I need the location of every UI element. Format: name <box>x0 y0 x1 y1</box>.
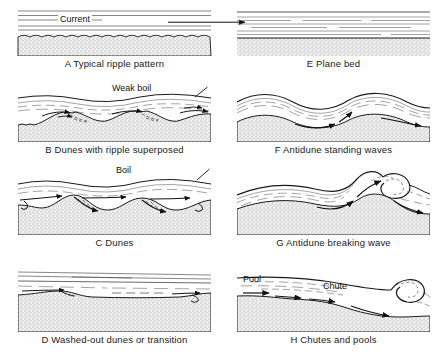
panel-h: Pool Chute H Chutes and pools <box>231 262 436 345</box>
panel-b: Weak boil B Dunes with ripple superposed <box>12 84 217 155</box>
panel-a-caption: A Typical ripple pattern <box>12 58 217 69</box>
panel-e-art <box>231 6 436 56</box>
panel-c: Boil C Dunes <box>12 167 217 248</box>
panel-f-caption: F Antidune standing waves <box>231 144 436 155</box>
panel-e-caption: E Plane bed <box>231 58 436 69</box>
panel-a: Current A Typical ripple pattern <box>12 6 217 69</box>
panel-g-caption: G Antidune breaking wave <box>231 237 436 248</box>
panel-c-art: Boil <box>12 167 217 235</box>
panel-d: D Washed-out dunes or transition <box>12 262 217 345</box>
panel-e: E Plane bed <box>231 6 436 69</box>
panel-c-caption: C Dunes <box>12 237 217 248</box>
panel-b-caption: B Dunes with ripple superposed <box>12 144 217 155</box>
bedform-sequence-figure: Current A Typical ripple pattern <box>0 0 443 360</box>
panel-d-art <box>12 262 217 332</box>
panel-h-art: Pool Chute <box>231 262 436 332</box>
panel-g-art <box>231 167 436 235</box>
panel-f: F Antidune standing waves <box>231 84 436 155</box>
panel-d-caption: D Washed-out dunes or transition <box>12 334 217 345</box>
panel-h-caption: H Chutes and pools <box>231 334 436 345</box>
annotation-pool: Pool <box>243 274 261 284</box>
panel-f-art <box>231 84 436 142</box>
annotation-current: Current <box>58 14 92 24</box>
panel-b-art: Weak boil <box>12 84 217 142</box>
panel-g: G Antidune breaking wave <box>231 167 436 248</box>
annotation-chute: Chute <box>323 281 347 291</box>
panel-a-art: Current <box>12 6 217 56</box>
